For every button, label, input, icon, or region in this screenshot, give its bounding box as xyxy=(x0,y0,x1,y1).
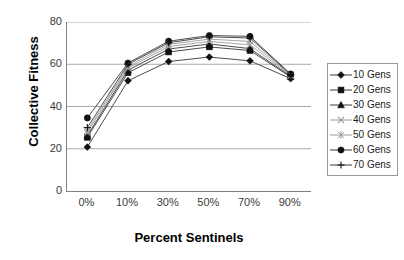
circle-marker-icon xyxy=(329,143,353,157)
data-point-marker xyxy=(84,115,90,121)
series-line xyxy=(87,57,290,147)
x-cross-marker-icon xyxy=(329,113,353,127)
y-tick-label: 60 xyxy=(32,58,62,69)
data-point-marker xyxy=(338,146,344,152)
square-marker-icon xyxy=(329,83,353,97)
x-tick-label: 50% xyxy=(186,196,230,208)
series-30-gens xyxy=(84,40,294,138)
series-line xyxy=(87,36,290,118)
data-point-marker xyxy=(206,54,213,61)
legend-item-label: 30 Gens xyxy=(353,100,391,110)
y-axis-tick-labels: 806040200 xyxy=(30,0,62,200)
chart-container: Collective Fitness 806040200 0%10%30%50%… xyxy=(0,0,404,260)
y-tick-label: 40 xyxy=(32,101,62,112)
series-line xyxy=(87,47,290,137)
data-point-marker xyxy=(338,87,344,93)
plot-svg xyxy=(67,22,311,192)
legend-item-label: 20 Gens xyxy=(353,85,391,95)
legend-item-label: 50 Gens xyxy=(353,130,391,140)
plot-area xyxy=(66,22,311,192)
y-tick-label: 0 xyxy=(32,185,62,196)
x-tick-label: 0% xyxy=(64,196,108,208)
x-axis-title: Percent Sentinels xyxy=(66,230,312,245)
x-tick-label: 70% xyxy=(227,196,271,208)
x-tick-label: 90% xyxy=(268,196,312,208)
legend-item-50-gens[interactable]: 50 Gens xyxy=(328,127,397,142)
data-point-marker xyxy=(247,57,254,64)
legend-item-40-gens[interactable]: 40 Gens xyxy=(328,112,397,127)
series-line xyxy=(87,44,290,136)
chart-legend: 10 Gens20 Gens30 Gens40 Gens50 Gens60 Ge… xyxy=(327,63,398,176)
series-60-gens xyxy=(84,32,294,121)
diamond-marker-icon xyxy=(329,68,353,82)
triangle-marker-icon xyxy=(329,98,353,112)
plus-marker-icon xyxy=(329,158,353,172)
data-point-marker xyxy=(337,161,344,168)
series-10-gens xyxy=(84,54,294,151)
y-tick-label: 20 xyxy=(32,143,62,154)
series-50-gens xyxy=(84,35,294,134)
legend-item-10-gens[interactable]: 10 Gens xyxy=(328,67,397,82)
legend-item-20-gens[interactable]: 20 Gens xyxy=(328,82,397,97)
legend-item-60-gens[interactable]: 60 Gens xyxy=(328,142,397,157)
x-tick-label: 10% xyxy=(105,196,149,208)
series-20-gens xyxy=(84,44,293,140)
legend-item-label: 10 Gens xyxy=(353,70,391,80)
data-point-marker xyxy=(84,144,91,151)
star-marker-icon xyxy=(329,128,353,142)
data-point-marker xyxy=(338,71,345,78)
legend-item-30-gens[interactable]: 30 Gens xyxy=(328,97,397,112)
x-tick-label: 30% xyxy=(146,196,190,208)
legend-item-label: 70 Gens xyxy=(353,160,391,170)
series-40-gens xyxy=(84,38,294,136)
legend-item-70-gens[interactable]: 70 Gens xyxy=(328,157,397,172)
legend-item-label: 40 Gens xyxy=(353,115,391,125)
x-axis-tick-labels: 0%10%30%50%70%90% xyxy=(66,196,310,214)
y-tick-label: 80 xyxy=(32,16,62,27)
data-point-marker xyxy=(125,77,132,84)
legend-item-label: 60 Gens xyxy=(353,145,391,155)
